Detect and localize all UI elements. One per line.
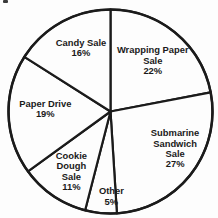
pie-slice-submarine-sandwich-sale — [111, 92, 213, 213]
fundraiser-pie-chart: Wrapping PaperSale22%SubmarineSandwichSa… — [0, 0, 218, 218]
pie-chart-figure: Wrapping PaperSale22%SubmarineSandwichSa… — [0, 0, 218, 218]
